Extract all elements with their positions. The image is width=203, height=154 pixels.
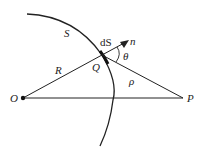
arrowhead-icon (120, 40, 129, 48)
line-OQ (23, 55, 102, 98)
label-S: S (64, 27, 70, 39)
label-rho: ρ (128, 75, 134, 87)
label-O: O (10, 92, 18, 104)
surface-curve (27, 14, 114, 146)
label-Q: Q (92, 61, 100, 73)
label-dS: dS (100, 36, 112, 48)
diagram-canvas: S dS n θ Q R ρ O P (0, 0, 203, 154)
label-R: R (54, 64, 62, 76)
label-n: n (130, 35, 136, 47)
origin-dot (21, 96, 25, 100)
label-P: P (186, 92, 194, 104)
angle-arc (116, 47, 119, 62)
label-theta: θ (123, 50, 129, 62)
